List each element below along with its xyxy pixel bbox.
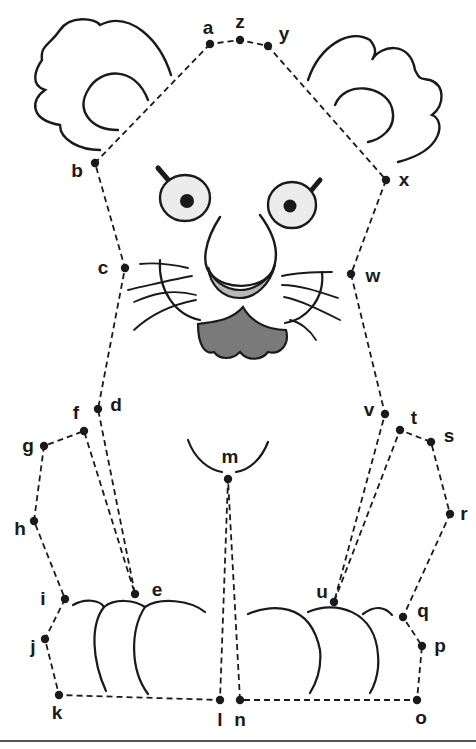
dot-h: h: [14, 517, 38, 539]
dot-marker: [427, 438, 435, 446]
dot-marker: [264, 42, 272, 50]
mouth: [198, 307, 287, 359]
dot-y: y: [264, 23, 290, 50]
dot-w: w: [347, 265, 381, 286]
dot-n: n: [234, 696, 246, 730]
dot-label: h: [14, 518, 26, 539]
dot-marker: [94, 405, 102, 413]
dot-marker: [30, 517, 38, 525]
dot-label: x: [399, 169, 410, 190]
dot-marker: [121, 264, 129, 272]
right-paw: [248, 607, 392, 693]
dot-label: t: [411, 407, 418, 428]
dot-label: e: [152, 579, 163, 600]
dot-z: z: [235, 11, 245, 44]
dot-label: j: [29, 636, 35, 657]
dot-label: d: [110, 394, 122, 415]
dot-label: q: [417, 600, 429, 621]
dot-marker: [236, 696, 244, 704]
dot-marker: [61, 595, 69, 603]
dot-marker: [131, 590, 139, 598]
dot-f: f: [73, 402, 88, 435]
dot-marker: [413, 696, 421, 704]
dot-marker: [224, 475, 232, 483]
dot-label: w: [365, 265, 381, 286]
dot-label: o: [415, 707, 427, 728]
dot-g: g: [22, 435, 48, 456]
dot-a: a: [203, 17, 214, 48]
dot-x: x: [382, 169, 410, 190]
dot-label: n: [234, 709, 246, 730]
right-eye: [268, 180, 320, 228]
dot-i: i: [40, 588, 69, 609]
dot-label: f: [73, 402, 80, 423]
dot-e: e: [131, 579, 162, 600]
dot-marker: [347, 270, 355, 278]
dot-label: k: [52, 702, 63, 723]
nose: [205, 215, 275, 298]
left-ear: [35, 19, 171, 150]
dot-marker: [41, 635, 49, 643]
dot-t: t: [396, 407, 418, 434]
dot-marker: [80, 427, 88, 435]
right-ear: [308, 36, 442, 162]
dot-marker: [418, 642, 426, 650]
dot-marker: [396, 426, 404, 434]
dot-marker: [446, 510, 454, 518]
dot-label: i: [40, 588, 45, 609]
bottom-border: [0, 740, 476, 742]
dot-label: p: [434, 635, 446, 656]
dot-label: s: [444, 425, 455, 446]
dot-k: k: [52, 691, 63, 723]
dot-marker: [399, 613, 407, 621]
dot-marker: [236, 36, 244, 44]
dot-marker: [55, 691, 63, 699]
dot-marker: [216, 696, 224, 704]
dot-marker: [330, 598, 338, 606]
dot-label: m: [222, 446, 239, 467]
dots-layer: azybxcwdvftsgmrheuiqjpklno: [14, 11, 468, 730]
dot-b: b: [71, 159, 99, 181]
dot-label: c: [98, 257, 109, 278]
dot-label: r: [460, 503, 468, 524]
dot-label: z: [235, 11, 245, 32]
dot-label: y: [279, 23, 290, 44]
dot-marker: [382, 176, 390, 184]
dot-label: u: [316, 581, 328, 602]
dot-marker: [40, 442, 48, 450]
dot-label: a: [203, 17, 214, 38]
dot-marker: [206, 40, 214, 48]
connect-the-dots-canvas: azybxcwdvftsgmrheuiqjpklno: [0, 0, 476, 749]
dot-s: s: [427, 425, 454, 446]
dot-label: b: [71, 160, 83, 181]
dot-label: v: [364, 399, 375, 420]
dot-label: l: [217, 709, 222, 730]
dot-marker: [91, 159, 99, 167]
dot-q: q: [399, 600, 429, 621]
dot-l: l: [216, 696, 224, 730]
dot-label: g: [22, 435, 34, 456]
dot-r: r: [446, 503, 468, 524]
left-eye: [158, 168, 210, 221]
dot-m: m: [222, 446, 239, 483]
dot-marker: [381, 410, 389, 418]
dot-o: o: [413, 696, 427, 728]
dot-v: v: [364, 399, 389, 420]
left-paw: [73, 601, 205, 694]
dot-u: u: [316, 581, 338, 606]
